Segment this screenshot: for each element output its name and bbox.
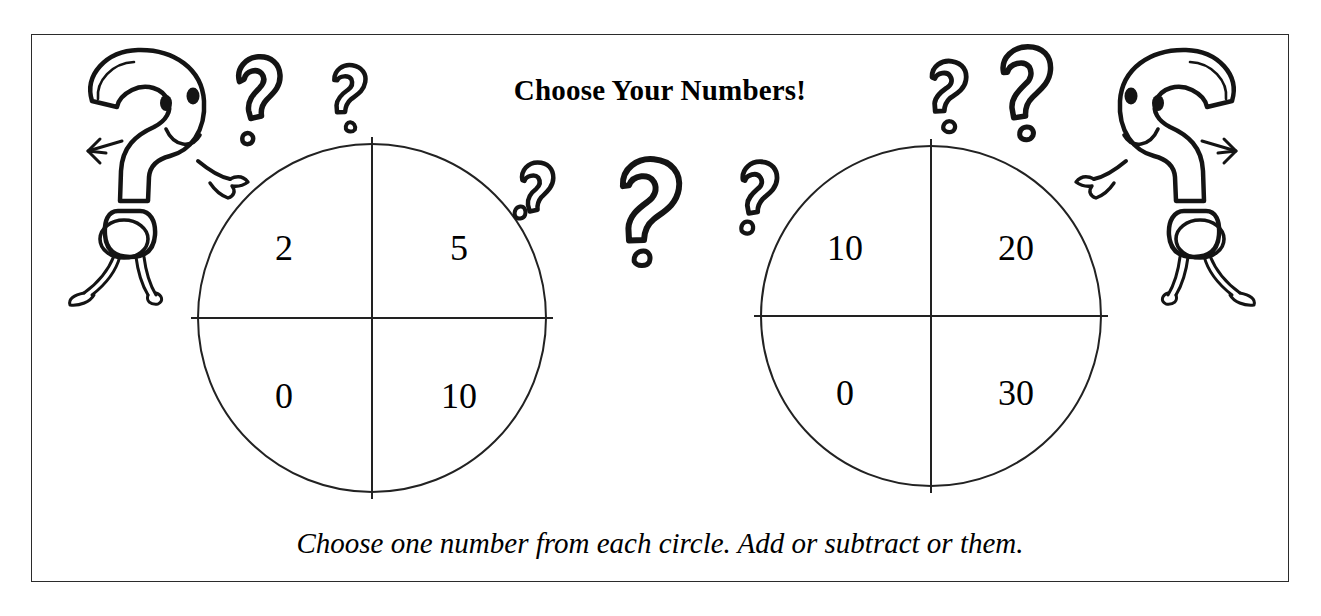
worksheet-frame: Choose Your Numbers! 2 5 0 10 10 20 0 30 <box>31 34 1289 582</box>
right-spinner-graphic <box>760 145 1102 487</box>
worksheet-instruction: Choose one number from each circle. Add … <box>32 529 1288 558</box>
question-mark-icon-4-graphic <box>608 154 686 271</box>
left-spinner-graphic <box>197 143 547 493</box>
right-spinner[interactable]: 10 20 0 30 <box>760 145 1102 487</box>
page-title: Choose Your Numbers! <box>32 76 1288 105</box>
left-spinner[interactable]: 2 5 0 10 <box>197 143 547 493</box>
question-mark-icon-4 <box>608 154 686 271</box>
